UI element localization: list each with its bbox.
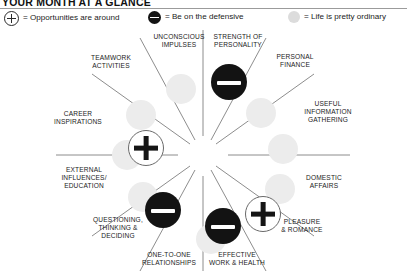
legend-item-defensive: = Be on the defensive [148, 11, 244, 24]
sector-label-unconscious-impulses: UNCONSCIOUS IMPULSES [148, 33, 210, 49]
sector-label-career-inspirations: CAREER INSPIRATIONS [42, 110, 114, 126]
sector-label-questioning-thinking: QUESTIONING, THINKING & DECIDING [82, 216, 154, 241]
sector-marker-personal-finance [246, 98, 276, 128]
grey-circle-icon [288, 11, 300, 23]
plus-circle-icon [4, 11, 19, 26]
sector-marker-effective-work-health [205, 208, 241, 244]
sector-label-useful-information: USEFUL INFORMATION GATHERING [291, 100, 365, 125]
sector-marker-career-inspirations [128, 130, 164, 166]
legend-label-opportunities: = Opportunities are around [23, 14, 120, 22]
legend-label-defensive: = Be on the defensive [165, 13, 244, 21]
title-divider [0, 8, 407, 9]
sector-marker-teamwork-activities [126, 100, 156, 130]
sector-label-pleasure-romance: PLEASURE & ROMANCE [271, 218, 333, 234]
sector-label-one-to-one: ONE-TO-ONE RELATIONSHIPS [136, 251, 202, 267]
legend-label-ordinary: = Life is pretty ordinary [304, 13, 386, 21]
legend-item-ordinary: = Life is pretty ordinary [288, 11, 386, 23]
sector-label-personal-finance: PERSONAL FINANCE [265, 53, 325, 69]
sector-label-external-influences: EXTERNAL INFLUENCES/ EDUCATION [48, 166, 120, 191]
legend-item-opportunities: = Opportunities are around [4, 11, 120, 26]
your-month-at-a-glance-page: YOUR MONTH AT A GLANCE = Opportunities a… [0, 0, 407, 271]
month-wheel: UNCONSCIOUS IMPULSES STRENGTH OF PERSONA… [0, 26, 407, 271]
sector-marker-useful-information [268, 134, 298, 164]
sector-label-domestic-affairs: DOMESTIC AFFAIRS [293, 174, 355, 190]
sector-label-teamwork-activities: TEAMWORK ACTIVITIES [78, 54, 144, 70]
sector-label-strength-of-personality: STRENGTH OF PERSONALITY [207, 33, 269, 49]
sector-marker-strength-of-personality [211, 64, 247, 100]
minus-circle-icon [148, 11, 161, 24]
page-title: YOUR MONTH AT A GLANCE [2, 0, 151, 8]
sector-marker-unconscious-impulses [166, 74, 196, 104]
sector-label-effective-work-health: EFFECTIVE WORK & HEALTH [204, 251, 270, 267]
